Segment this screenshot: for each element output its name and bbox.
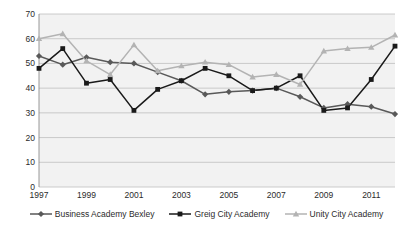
data-point-marker — [38, 211, 44, 217]
x-tick-label: 2007 — [267, 191, 286, 200]
x-tick-label: 1997 — [30, 191, 49, 200]
data-point-marker — [178, 212, 183, 217]
legend-marker-triangle-icon — [285, 209, 307, 219]
legend-item-2[interactable]: Unity City Academy — [285, 209, 384, 219]
x-tick-label: 1999 — [77, 191, 96, 200]
x-tick-label: 2001 — [124, 191, 143, 200]
x-tick-label: 2011 — [362, 191, 380, 200]
legend-item-0[interactable]: Business Academy Bexley — [30, 209, 155, 219]
x-tick-label: 2005 — [219, 191, 238, 200]
legend-item-1[interactable]: Greig City Academy — [169, 209, 269, 219]
legend-marker-square-icon — [169, 209, 191, 219]
line-chart: 706050403020100 199719992001200320052007… — [0, 0, 413, 232]
x-tick-label: 2009 — [314, 191, 333, 200]
legend-label: Greig City Academy — [194, 209, 269, 219]
x-axis: 19971999200120032005200720092011 — [0, 0, 413, 232]
legend-marker-diamond-icon — [30, 209, 52, 219]
x-tick-label: 2003 — [172, 191, 191, 200]
chart-legend: Business Academy BexleyGreig City Academ… — [0, 204, 413, 224]
legend-label: Business Academy Bexley — [55, 209, 155, 219]
legend-label: Unity City Academy — [310, 209, 384, 219]
